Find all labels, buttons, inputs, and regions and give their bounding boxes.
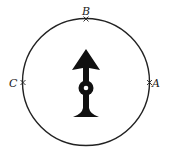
- point-a-label: A: [151, 77, 160, 90]
- point-b-label: B: [81, 5, 90, 18]
- diagram: B C A: [0, 0, 172, 153]
- point-c-label: C: [9, 77, 18, 90]
- pivot-hole: [84, 86, 89, 91]
- arrow-icon: [72, 49, 100, 117]
